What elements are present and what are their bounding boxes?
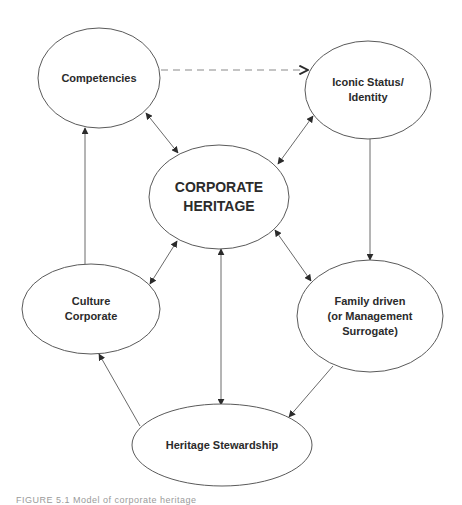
edge-corporate-to-culture-arrow-icon	[150, 241, 177, 284]
node-family-label: Family driven	[335, 295, 406, 307]
node-culture-label: Culture	[72, 295, 111, 307]
edge-iconic-to-corporate-arrow-icon	[278, 116, 313, 164]
node-iconic-label: Iconic Status/	[332, 76, 404, 88]
node-stewardship-label: Heritage Stewardship	[166, 439, 279, 451]
node-competencies: Competencies	[38, 28, 160, 128]
node-culture-label: Corporate	[65, 310, 118, 322]
node-iconic: Iconic Status/Identity	[305, 41, 431, 139]
node-corporate-ellipse	[149, 145, 289, 249]
node-culture: CultureCorporate	[22, 264, 160, 354]
node-corporate: CORPORATEHERITAGE	[149, 145, 289, 249]
node-corporate-label: HERITAGE	[183, 198, 254, 214]
node-corporate-label: CORPORATE	[175, 179, 263, 195]
node-family: Family driven(or ManagementSurrogate)	[297, 260, 443, 372]
edge-family-to-stewardship-arrow-icon	[289, 366, 333, 417]
edge-competencies-to-corporate-arrow-icon	[146, 113, 178, 153]
node-culture-ellipse	[22, 264, 160, 354]
edge-stewardship-to-culture-arrow-icon	[99, 354, 140, 426]
edge-corporate-to-family-arrow-icon	[275, 230, 311, 281]
node-stewardship: Heritage Stewardship	[132, 404, 312, 486]
figure-caption: FIGURE 5.1 Model of corporate heritage	[16, 495, 197, 505]
node-competencies-label: Competencies	[61, 72, 136, 84]
node-iconic-label: Identity	[348, 91, 388, 103]
node-iconic-ellipse	[305, 41, 431, 139]
node-family-label: Surrogate)	[342, 325, 398, 337]
node-family-label: (or Management	[328, 310, 413, 322]
